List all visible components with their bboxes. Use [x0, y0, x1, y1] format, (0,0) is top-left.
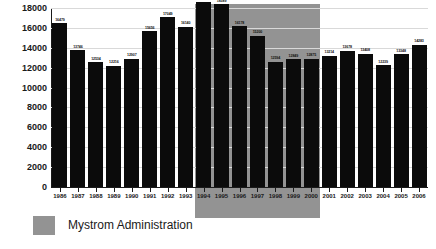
y-axis-tick-label: 12000 — [3, 64, 47, 73]
bar-value-label: 14283 — [406, 39, 433, 43]
bar-value-label: 15656 — [136, 26, 163, 30]
bar-slot: 13678 — [340, 8, 355, 187]
bar-slot: 16178 — [232, 8, 247, 187]
bar-slot: 12849 — [286, 8, 301, 187]
y-axis-tick-label: 6000 — [3, 123, 47, 132]
bar-value-label: 13408 — [352, 48, 379, 52]
bar-slot: 18389 — [214, 8, 229, 187]
bar[interactable] — [394, 54, 409, 187]
x-axis-tick — [257, 188, 258, 192]
bar[interactable] — [196, 2, 211, 187]
chart-legend: Mystrom Administration — [0, 208, 436, 242]
bar-value-label: 13214 — [316, 50, 343, 54]
bar-value-label: 16140 — [172, 21, 199, 25]
x-axis-tick — [419, 188, 420, 192]
x-axis-tick — [60, 188, 61, 192]
bar[interactable] — [106, 66, 121, 187]
y-axis-tick-label: 4000 — [3, 143, 47, 152]
x-axis-tick — [96, 188, 97, 192]
x-axis-tick — [78, 188, 79, 192]
bar-value-label: 18389 — [208, 0, 235, 3]
bar-slot: 18642 — [196, 8, 211, 187]
bar-slot: 12907 — [124, 8, 139, 187]
x-axis-tick — [383, 188, 384, 192]
bar-slot: 15200 — [250, 8, 265, 187]
bar-value-label: 12907 — [118, 53, 145, 57]
y-axis-tick-label: 14000 — [3, 44, 47, 53]
bar-value-label: 12239 — [370, 60, 397, 64]
x-axis-tick — [329, 188, 330, 192]
x-axis-tick — [168, 188, 169, 192]
bar-slot: 15656 — [142, 8, 157, 187]
x-axis-tick — [204, 188, 205, 192]
bar-slot: 13214 — [322, 8, 337, 187]
bar[interactable] — [160, 17, 175, 187]
y-axis-tick-label: 16000 — [3, 24, 47, 33]
y-axis-tick-label: 0 — [3, 183, 47, 192]
x-axis-tick-label: 2006 — [406, 193, 432, 200]
x-axis-tick — [347, 188, 348, 192]
bar[interactable] — [304, 59, 319, 187]
x-axis-tick — [293, 188, 294, 192]
bar[interactable] — [268, 62, 283, 187]
bar-slot: 13348 — [394, 8, 409, 187]
x-axis-tick — [222, 188, 223, 192]
bar-slot: 12594 — [268, 8, 283, 187]
bar-value-label: 17049 — [154, 12, 181, 16]
bar-chart: 0200040006000800010000120001400016000180… — [0, 0, 436, 202]
x-axis-tick — [311, 188, 312, 192]
x-axis-tick — [186, 188, 187, 192]
legend-swatch-mystrom-administration — [33, 216, 55, 235]
bar[interactable] — [88, 62, 103, 187]
x-axis-tick — [275, 188, 276, 192]
bar-value-label: 13348 — [388, 49, 415, 53]
bar-value-label: 15200 — [244, 30, 271, 34]
bar-value-label: 16479 — [46, 18, 73, 22]
bar[interactable] — [124, 59, 139, 187]
bar-slot: 13746 — [70, 8, 85, 187]
bar-value-label: 16178 — [226, 21, 253, 25]
bar[interactable] — [340, 51, 355, 187]
bar[interactable] — [178, 27, 193, 188]
x-axis-tick — [132, 188, 133, 192]
x-axis-tick — [401, 188, 402, 192]
bar[interactable] — [286, 59, 301, 187]
x-axis-tick — [365, 188, 366, 192]
bar-slot: 13408 — [358, 8, 373, 187]
bar-slot: 12216 — [106, 8, 121, 187]
x-axis-tick — [150, 188, 151, 192]
y-axis-tick-label: 2000 — [3, 163, 47, 172]
bar-slot: 12239 — [376, 8, 391, 187]
bar[interactable] — [412, 45, 427, 187]
bar-slot: 12534 — [88, 8, 103, 187]
y-axis-tick-label: 18000 — [3, 4, 47, 13]
x-axis-labels: 1986198719881989199019911992199319941995… — [51, 188, 428, 202]
bar-slot: 16140 — [178, 8, 193, 187]
bar-slot: 17049 — [160, 8, 175, 187]
bar[interactable] — [70, 50, 85, 187]
x-axis-tick — [114, 188, 115, 192]
x-axis-tick — [240, 188, 241, 192]
legend-label-mystrom-administration: Mystrom Administration — [68, 218, 193, 232]
bar[interactable] — [376, 65, 391, 187]
bar-value-label: 13746 — [64, 45, 91, 49]
plot-area: 1647913746125341221612907156561704916140… — [51, 8, 428, 187]
bar-slot: 12875 — [304, 8, 319, 187]
bar[interactable] — [232, 26, 247, 187]
y-axis-tick-label: 8000 — [3, 103, 47, 112]
bar[interactable] — [322, 56, 337, 187]
bar[interactable] — [142, 31, 157, 187]
y-axis-labels: 0200040006000800010000120001400016000180… — [0, 8, 47, 188]
bar[interactable] — [214, 4, 229, 187]
bar[interactable] — [358, 54, 373, 187]
bar-slot: 16479 — [52, 8, 67, 187]
bar-value-label: 12216 — [100, 60, 127, 64]
y-axis-tick-label: 10000 — [3, 84, 47, 93]
bar-slot: 14283 — [412, 8, 427, 187]
